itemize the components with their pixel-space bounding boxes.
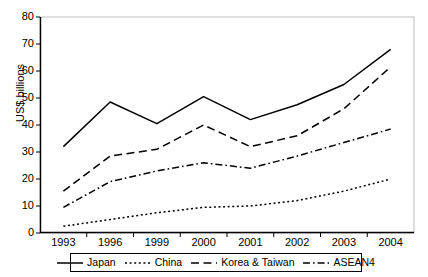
legend-swatch-dotted xyxy=(125,259,151,267)
legend-swatch-dashdot xyxy=(303,259,329,267)
y-axis-tick-label: 60 xyxy=(12,65,34,76)
y-axis-tick-label: 50 xyxy=(12,92,34,103)
legend-item: China xyxy=(125,257,182,268)
x-axis-tick-label: 2003 xyxy=(324,236,364,248)
plot-background xyxy=(40,17,414,233)
x-axis-tick-label: 2002 xyxy=(277,236,317,248)
x-axis-tick-label: 2004 xyxy=(371,236,411,248)
y-axis-tick-label: 20 xyxy=(12,173,34,184)
x-axis-tick-label: 1996 xyxy=(90,236,130,248)
legend-swatch-dashed xyxy=(191,259,217,267)
legend-label: ASEAN4 xyxy=(333,257,374,268)
x-axis-tick-label: 2001 xyxy=(230,236,270,248)
chart-figure: US$ billions 01020304050607080 JapanChin… xyxy=(0,0,428,277)
legend-label: Japan xyxy=(87,257,116,268)
legend-label: Korea & Taiwan xyxy=(221,257,294,268)
y-axis-tick-label: 30 xyxy=(12,146,34,157)
y-axis-tick-label: 10 xyxy=(12,200,34,211)
x-axis-tick-label: 1993 xyxy=(43,236,83,248)
y-axis-tick-label: 70 xyxy=(12,38,34,49)
chart-legend: JapanChinaKorea & TaiwanASEAN4 xyxy=(70,253,362,272)
legend-item: ASEAN4 xyxy=(303,257,374,268)
y-axis-tick-labels: 01020304050607080 xyxy=(10,0,34,277)
legend-item: Japan xyxy=(57,257,116,268)
legend-item: Korea & Taiwan xyxy=(191,257,294,268)
x-axis-tick-label: 2000 xyxy=(184,236,224,248)
legend-swatch-solid xyxy=(57,259,83,267)
y-axis-tick-label: 0 xyxy=(12,227,34,238)
legend-label: China xyxy=(155,257,182,268)
y-axis-tick-label: 80 xyxy=(12,11,34,22)
y-axis-tick-label: 40 xyxy=(12,119,34,130)
x-axis-tick-label: 1999 xyxy=(137,236,177,248)
